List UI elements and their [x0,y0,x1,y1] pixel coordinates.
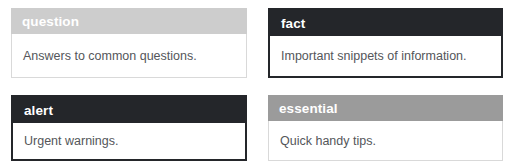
callout-header-essential: essential [268,95,503,121]
callout-body-text-essential: Quick handy tips. [280,134,376,148]
callout-header-alert: alert [11,95,247,123]
callout-title-essential: essential [279,101,338,116]
callout-title-alert: alert [24,103,53,118]
callout-body-text-fact: Important snippets of information. [281,49,467,63]
callout-alert: alertUrgent warnings. [11,95,247,161]
callout-body-alert: Urgent warnings. [11,123,247,161]
callout-question: questionAnswers to common questions. [11,8,247,78]
callout-fact: factImportant snippets of information. [268,8,503,78]
callout-essential: essentialQuick handy tips. [268,95,503,161]
callout-body-question: Answers to common questions. [11,34,247,78]
callout-grid: questionAnswers to common questions.fact… [0,0,513,167]
callout-body-text-question: Answers to common questions. [23,49,197,63]
callout-body-fact: Important snippets of information. [268,36,503,78]
callout-body-essential: Quick handy tips. [268,121,503,161]
callout-body-text-alert: Urgent warnings. [24,134,119,148]
callout-title-fact: fact [281,16,305,31]
callout-header-question: question [11,8,247,34]
callout-title-question: question [22,14,79,29]
callout-header-fact: fact [268,8,503,36]
